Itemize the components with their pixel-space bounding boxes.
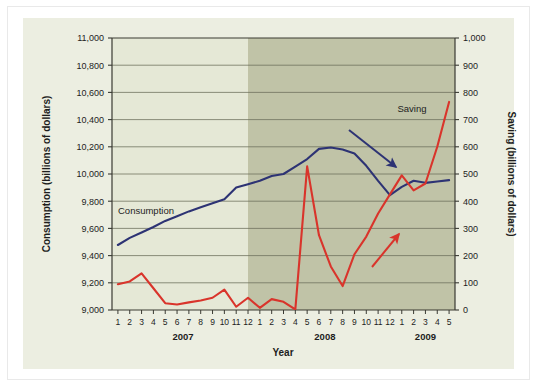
right-axis-tick-label: 400	[463, 197, 478, 207]
left-axis-tick-label: 9,600	[81, 224, 104, 234]
x-axis-tick-label: 7	[328, 317, 333, 327]
left-axis-tick-label: 9,000	[81, 305, 104, 315]
right-axis-tick-label: 600	[463, 142, 478, 152]
x-axis-tick-label: 10	[220, 317, 230, 327]
left-axis-tick-label: 9,200	[81, 278, 104, 288]
right-axis-tick-label: 0	[463, 305, 468, 315]
x-axis-tick-label: 11	[232, 317, 241, 327]
x-axis-tick-label: 12	[385, 317, 395, 327]
x-axis-tick-label: 2	[269, 317, 274, 327]
left-axis-tick-label: 10,000	[76, 169, 104, 179]
x-axis-tick-label: 1	[257, 317, 262, 327]
x-axis-tick-label: 5	[163, 317, 168, 327]
left-axis-tick-label: 10,800	[76, 61, 104, 71]
right-axis-tick-label: 300	[463, 224, 478, 234]
x-axis-tick-label: 8	[340, 317, 345, 327]
x-axis-tick-label: 8	[198, 317, 203, 327]
left-axis: 9,0009,2009,4009,6009,80010,00010,20010,…	[76, 33, 112, 315]
left-axis-tick-label: 10,200	[76, 142, 104, 152]
left-axis-tick-label: 9,400	[81, 251, 104, 261]
x-axis-tick-label: 1	[399, 317, 404, 327]
x-axis-tick-label: 4	[293, 317, 298, 327]
left-axis-tick-label: 9,800	[81, 197, 104, 207]
left-axis-tick-label: 10,600	[76, 88, 104, 98]
x-axis-tick-label: 12	[243, 317, 253, 327]
x-axis-tick-label: 4	[151, 317, 156, 327]
right-axis-tick-label: 700	[463, 115, 478, 125]
x-axis-tick-label: 6	[317, 317, 322, 327]
right-axis-tick-label: 800	[463, 88, 478, 98]
right-axis: 01002003004005006007008009001,000	[455, 33, 486, 315]
x-axis-tick-label: 5	[305, 317, 310, 327]
x-axis-year-label: 2009	[415, 331, 436, 342]
x-axis-tick-label: 5	[447, 317, 452, 327]
x-axis-tick-label: 9	[210, 317, 215, 327]
right-axis-title: Saving (billions of dollars)	[506, 111, 517, 236]
x-axis-tick-label: 11	[374, 317, 383, 327]
x-axis: 1234567891011121234567891011121234520072…	[116, 310, 452, 342]
right-axis-tick-label: 1,000	[463, 33, 486, 43]
x-axis-tick-label: 10	[362, 317, 372, 327]
right-axis-tick-label: 500	[463, 169, 478, 179]
x-axis-tick-label: 3	[423, 317, 428, 327]
x-axis-tick-label: 2	[127, 317, 132, 327]
line-chart: 9,0009,2009,4009,6009,80010,00010,20010,…	[0, 0, 537, 387]
figure-container: 9,0009,2009,4009,6009,80010,00010,20010,…	[0, 0, 537, 387]
x-axis-tick-label: 4	[435, 317, 440, 327]
x-axis-tick-label: 2	[411, 317, 416, 327]
left-axis-title: Consumption (billions of dollars)	[41, 96, 52, 253]
saving-series-label: Saving	[397, 103, 426, 114]
x-axis-tick-label: 3	[139, 317, 144, 327]
x-axis-title: Year	[272, 347, 293, 358]
right-axis-tick-label: 100	[463, 278, 478, 288]
consumption-series-label: Consumption	[118, 205, 174, 216]
x-axis-tick-label: 9	[352, 317, 357, 327]
left-axis-tick-label: 10,400	[76, 115, 104, 125]
x-axis-year-label: 2007	[172, 331, 193, 342]
right-axis-tick-label: 200	[463, 251, 478, 261]
right-axis-tick-label: 900	[463, 61, 478, 71]
x-axis-tick-label: 6	[175, 317, 180, 327]
x-axis-year-label: 2008	[314, 331, 335, 342]
x-axis-tick-label: 1	[116, 317, 121, 327]
x-axis-tick-label: 3	[281, 317, 286, 327]
x-axis-tick-label: 7	[187, 317, 192, 327]
left-axis-tick-label: 11,000	[77, 33, 104, 43]
